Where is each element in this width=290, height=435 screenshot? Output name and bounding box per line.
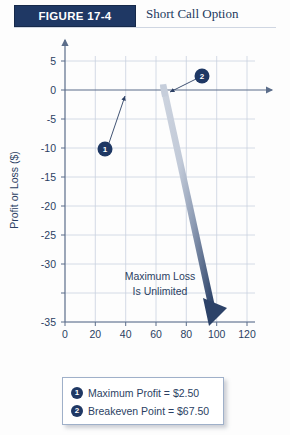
x-tick-label-40: 40 xyxy=(120,328,132,340)
grid-vertical xyxy=(95,56,247,322)
grid-horizontal xyxy=(65,61,255,322)
x-tick-label-80: 80 xyxy=(180,328,192,340)
legend-label-2: Breakeven Point = $67.50 xyxy=(88,402,209,420)
figure-header: FIGURE 17-4 Short Call Option xyxy=(0,5,290,27)
y-tick-label-5: 5 xyxy=(50,55,56,67)
legend-item-2: 2Breakeven Point = $67.50 xyxy=(71,401,209,419)
callout-2-number: 2 xyxy=(200,72,205,81)
max-loss-annotation-line2: Is Unlimited xyxy=(133,285,188,297)
x-tick-label-0: 0 xyxy=(62,328,68,340)
payoff-corner xyxy=(160,85,168,98)
x-tick-label-120: 120 xyxy=(238,328,256,340)
y-tick-label-m10: -10 xyxy=(41,142,56,154)
payoff-chart-svg: 5 0 -5 -10 -15 -20 -25 -30 -35 0 20 40 6… xyxy=(0,30,290,340)
legend-bullet-2: 2 xyxy=(71,405,83,417)
y-tick-label-m25: -25 xyxy=(41,229,56,241)
legend-label-1: Maximum Profit = $2.50 xyxy=(88,384,199,402)
callout-1-number: 1 xyxy=(103,145,108,154)
x-tick-label-100: 100 xyxy=(208,328,226,340)
figure-number-tab: FIGURE 17-4 xyxy=(14,5,136,27)
legend-bullet-1: 1 xyxy=(71,387,83,399)
legend-item-1: 1Maximum Profit = $2.50 xyxy=(71,383,199,401)
x-tick-label-60: 60 xyxy=(150,328,162,340)
y-axis-title: Profit or Loss ($) xyxy=(8,151,20,229)
chart-area: 5 0 -5 -10 -15 -20 -25 -30 -35 0 20 40 6… xyxy=(0,30,290,340)
y-tick-label-m35: -35 xyxy=(41,316,56,328)
figure-panel: FIGURE 17-4 Short Call Option xyxy=(0,0,290,435)
figure-number-label: FIGURE 17-4 xyxy=(15,6,135,26)
figure-title: Short Call Option xyxy=(146,6,238,22)
header-divider xyxy=(14,27,276,28)
y-tick-label-m30: -30 xyxy=(41,258,56,270)
callout-1-leader xyxy=(109,96,125,143)
max-loss-annotation-line1: Maximum Loss xyxy=(125,270,196,282)
x-ticks xyxy=(65,322,255,326)
y-tick-label-m5: -5 xyxy=(47,113,56,125)
x-tick-label-20: 20 xyxy=(89,328,101,340)
y-tick-label-m20: -20 xyxy=(41,200,56,212)
legend-box: 1Maximum Profit = $2.50 2Breakeven Point… xyxy=(62,377,224,425)
y-tick-label-m15: -15 xyxy=(41,171,56,183)
y-tick-label-0: 0 xyxy=(50,84,56,96)
